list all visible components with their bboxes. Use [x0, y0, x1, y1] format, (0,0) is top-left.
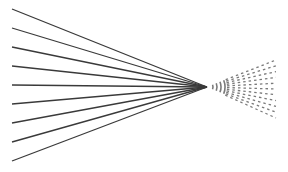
converging-line — [12, 9, 207, 87]
wavefront-arcs — [213, 80, 225, 93]
converging-line — [12, 47, 207, 87]
diverging-ray — [226, 60, 276, 80]
wavefront-arc — [224, 80, 225, 93]
diverging-ray — [227, 91, 276, 101]
diverging-ray — [227, 88, 276, 89]
diverging-ray — [226, 94, 276, 112]
diverging-ray — [225, 95, 276, 118]
converging-line — [12, 28, 207, 87]
diverging-ray — [227, 72, 276, 83]
focusing-rays-diagram — [0, 0, 288, 172]
converging-lines — [12, 9, 207, 161]
converging-line — [12, 66, 207, 87]
diverging-dashed-rays — [225, 60, 276, 118]
wavefront-arc — [216, 83, 217, 90]
diverging-ray — [226, 66, 276, 81]
diverging-ray — [226, 92, 276, 106]
converging-line — [12, 87, 207, 123]
wavefront-arc — [220, 82, 221, 92]
converging-line — [12, 87, 207, 161]
converging-line — [12, 85, 207, 87]
